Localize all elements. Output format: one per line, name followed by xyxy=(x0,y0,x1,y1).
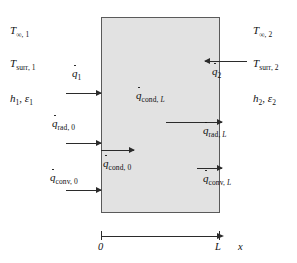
heat-transfer-diagram: T∞, 1 Tsurr, 1 h1, ε1 T∞, 2 Tsurr, 2 h2,… xyxy=(0,0,297,263)
label-q-conv-0: qconv, 0 xyxy=(50,172,78,183)
label-q-cond-L: qcond, L xyxy=(136,90,165,101)
q1-arrow xyxy=(66,93,101,94)
x-axis-tick-L xyxy=(219,231,220,240)
label-t-inf-1: T∞, 1 xyxy=(10,25,29,36)
label-q-cond-0: qcond, 0 xyxy=(103,158,131,169)
label-q-rad-0: qrad, 0 xyxy=(52,118,75,129)
label-q-conv-L: qconv, L xyxy=(203,173,231,184)
q2-arrow xyxy=(205,61,247,62)
label-h2-eps2: h2, ε2 xyxy=(253,93,276,104)
label-q-1: q1 xyxy=(72,68,81,79)
x-axis-label: x xyxy=(238,241,243,252)
x-axis-line xyxy=(101,236,217,237)
q-rad-0-arrow xyxy=(66,143,101,144)
x-axis-tick-label-0: 0 xyxy=(98,241,103,252)
label-h1-eps1: h1, ε1 xyxy=(10,93,33,104)
q-cond-L-arrow xyxy=(166,122,222,123)
label-q-rad-L: qrad, L xyxy=(203,125,227,136)
q-cond-0-arrow xyxy=(101,150,134,151)
q-conv-0-arrow xyxy=(66,190,101,191)
x-axis-tick-label-L: L xyxy=(215,241,221,252)
label-q-2: q2 xyxy=(212,66,221,77)
label-t-surr-1: Tsurr, 1 xyxy=(10,58,36,69)
x-axis-tick-0 xyxy=(101,231,102,240)
label-t-inf-2: T∞, 2 xyxy=(253,25,272,36)
label-t-surr-2: Tsurr, 2 xyxy=(253,58,279,69)
q-conv-L-arrow xyxy=(197,168,222,169)
